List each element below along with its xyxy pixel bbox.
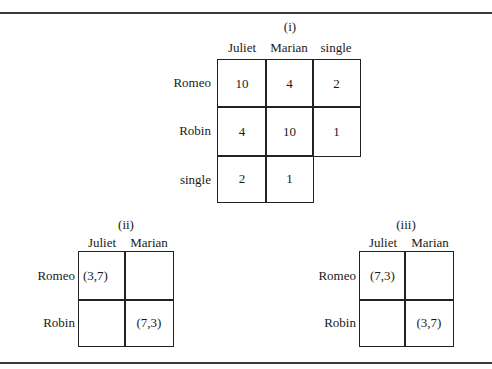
panel-title: (iii) — [396, 218, 416, 232]
matrix-cell: (7,3) — [359, 251, 406, 301]
matrix-cell: (3,7) — [404, 299, 454, 347]
matrix-cell: 1 — [312, 106, 361, 157]
matrix-cell: (7,3) — [124, 299, 174, 347]
matrix-cell: (3,7) — [78, 251, 126, 301]
top-rule — [0, 12, 492, 14]
col-header-juliet: Juliet — [88, 236, 116, 250]
row-header-romeo: Romeo — [173, 76, 211, 90]
matrix-cell: 2 — [217, 155, 267, 203]
row-header-robin: Robin — [43, 316, 75, 330]
matrix-cell — [78, 299, 126, 347]
col-header-single: single — [320, 41, 351, 55]
matrix-cell: 4 — [265, 59, 314, 108]
col-header-juliet: Juliet — [369, 236, 397, 250]
row-header-romeo: Romeo — [37, 269, 75, 283]
row-header-robin: Robin — [179, 124, 211, 138]
panel-title: (i) — [284, 20, 296, 34]
matrix-cell: 4 — [217, 106, 267, 157]
col-header-marian: Marian — [130, 236, 168, 250]
col-header-juliet: Juliet — [228, 41, 256, 55]
col-header-marian: Marian — [411, 236, 449, 250]
bottom-rule — [0, 362, 492, 364]
col-header-marian: Marian — [270, 41, 308, 55]
row-header-single: single — [180, 173, 211, 187]
matrix-cell: 2 — [312, 59, 361, 108]
matrix-cell — [359, 299, 406, 347]
panel-title: (ii) — [118, 218, 134, 232]
matrix-cell: 1 — [265, 155, 314, 203]
matrix-cell — [124, 251, 174, 301]
matrix-cell: 10 — [217, 59, 267, 108]
matrix-cell — [404, 251, 454, 301]
row-header-romeo: Romeo — [318, 269, 356, 283]
row-header-robin: Robin — [324, 316, 356, 330]
matrix-cell: 10 — [265, 106, 314, 157]
